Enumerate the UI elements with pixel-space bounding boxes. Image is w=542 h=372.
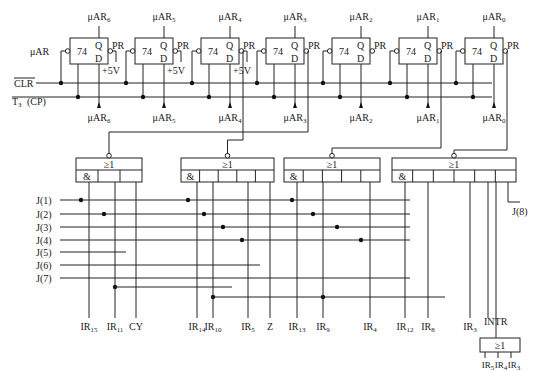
j-input-label: J(5) <box>36 247 52 259</box>
junction-dot <box>255 81 259 85</box>
arrow-icon <box>162 102 166 108</box>
junction-dot <box>59 81 63 85</box>
q-output-label: μAR6 <box>88 11 111 24</box>
j8-label: J(8) <box>512 206 528 218</box>
d-pin-label: D <box>291 53 298 64</box>
inverter-bubble <box>130 49 135 54</box>
ir-label: CY <box>129 321 143 332</box>
junction-dot <box>207 95 211 99</box>
j-input-label: J(1) <box>36 195 52 207</box>
junction-dot <box>76 95 80 99</box>
arrow-icon <box>359 102 363 108</box>
d-input-label: μAR0 <box>483 112 506 125</box>
pr-label: PR <box>308 40 321 51</box>
inverter-bubble <box>460 49 465 54</box>
and-symbol: & <box>83 171 91 182</box>
junction-dot <box>290 198 294 202</box>
d-input-label: μAR6 <box>88 112 111 125</box>
d-input-label: μAR3 <box>284 112 307 125</box>
junction-dot <box>240 238 244 242</box>
pr-label: PR <box>441 40 454 51</box>
ir-label: IR13 <box>289 321 307 334</box>
and-symbol: & <box>398 171 406 182</box>
junction-dot <box>335 225 339 229</box>
ir-label: IR5 <box>482 360 495 372</box>
chip-label: 74 <box>406 46 416 57</box>
junction-dot <box>186 198 190 202</box>
chip-label: 74 <box>339 46 349 57</box>
vcc-label: +5V <box>233 65 252 76</box>
pr-wire <box>178 51 181 62</box>
inverter-bubble <box>327 49 332 54</box>
pr-label: PR <box>243 40 256 51</box>
clr-wire <box>323 51 327 83</box>
arrow-icon <box>426 102 430 108</box>
q-pin-label: Q <box>357 40 365 51</box>
chip-label: 74 <box>77 46 87 57</box>
junction-dot <box>272 95 276 99</box>
pr-wire <box>113 51 116 62</box>
flipflop-74-ff4 <box>201 38 239 64</box>
ir-label: IR3 <box>508 360 521 372</box>
ir-label: IR3 <box>463 321 477 334</box>
inverter-bubble <box>107 153 112 158</box>
clock-suffix: (CP) <box>27 96 46 108</box>
q-output-label: μAR1 <box>417 11 440 24</box>
pr-wire <box>244 51 247 62</box>
feedback-wire <box>332 51 441 155</box>
ir-label: Z <box>267 321 273 332</box>
or-symbol: ≥1 <box>222 159 233 170</box>
junction-dot <box>190 81 194 85</box>
vcc-label: +5V <box>167 65 186 76</box>
d-pin-label: D <box>357 53 364 64</box>
pr-label: PR <box>507 40 520 51</box>
ir-label: IR12 <box>397 321 415 334</box>
ir-label: IR4 <box>363 321 377 334</box>
pr-label: PR <box>112 40 125 51</box>
and-symbol: & <box>186 171 194 182</box>
chip-label: 74 <box>142 46 152 57</box>
q-pin-label: Q <box>160 40 168 51</box>
q-pin-label: Q <box>95 40 103 51</box>
or-symbol: ≥1 <box>327 159 338 170</box>
inverter-bubble <box>225 153 230 158</box>
junction-dot <box>102 212 106 216</box>
q-pin-label: Q <box>291 40 299 51</box>
flipflop-74-ff5 <box>135 38 173 64</box>
q-output-label: μAR5 <box>153 11 176 24</box>
inverter-bubble <box>330 153 335 158</box>
or-symbol: ≥1 <box>449 159 460 170</box>
d-pin-label: D <box>95 53 102 64</box>
d-pin-label: D <box>490 53 497 64</box>
vcc-label: +5V <box>102 65 121 76</box>
inverter-bubble <box>394 49 399 54</box>
clr-wire <box>456 51 460 83</box>
junction-dot <box>221 225 225 229</box>
ir-label: IR14 <box>189 321 207 334</box>
ir-label: IR8 <box>421 321 435 334</box>
flipflop-74-ff3 <box>266 38 304 64</box>
feedback-wire <box>454 51 507 155</box>
junction-dot <box>338 95 342 99</box>
d-input-label: μAR2 <box>350 112 373 125</box>
j8-wire <box>508 182 520 202</box>
j-input-label: J(4) <box>36 235 52 247</box>
circuit-schematic: CLRT3(CP)74QDμAR6μARPRμAR6+5V74QDμAR5PRμ… <box>0 0 542 372</box>
ir-label: IR5 <box>241 321 255 334</box>
pr-label: PR <box>374 40 387 51</box>
d-pin-label: D <box>226 53 233 64</box>
junction-dot <box>359 238 363 242</box>
clr-label: CLR <box>14 78 34 89</box>
q-output-label: μAR4 <box>219 11 242 24</box>
junction-dot <box>405 95 409 99</box>
d-pin-label: D <box>160 53 167 64</box>
clr-wire <box>390 51 394 83</box>
chip-label: 74 <box>208 46 218 57</box>
d-pin-label: D <box>424 53 431 64</box>
q-pin-label: Q <box>490 40 498 51</box>
ir-label: IR9 <box>316 321 330 334</box>
or-symbol: ≥1 <box>104 159 115 170</box>
flipflop-74-ff2 <box>332 38 370 64</box>
junction-dot <box>311 212 315 216</box>
chip-label: 74 <box>273 46 283 57</box>
